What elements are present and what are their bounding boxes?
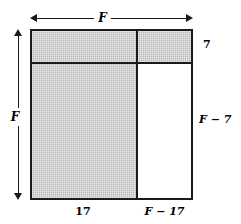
- partitioned-square: [30, 29, 193, 200]
- vertical-divider-line-lower: [136, 64, 138, 198]
- vertical-divider-line-upper: [136, 31, 138, 62]
- geometry-figure: F F 7 F − 7 17 F − 17: [0, 0, 241, 224]
- label-total-height-text: F: [10, 108, 21, 126]
- label-total-width: F: [0, 12, 223, 24]
- label-total-width-text: F: [94, 12, 111, 24]
- label-right-width: F − 17: [136, 206, 193, 217]
- label-lower-height-text: F − 7: [199, 113, 231, 126]
- label-band-height: 7: [203, 39, 211, 50]
- arrow-head-bottom-icon: [14, 193, 22, 200]
- label-right-width-text: F − 17: [145, 205, 185, 218]
- horizontal-divider-line: [32, 62, 191, 64]
- region-bottom-left: [32, 64, 136, 198]
- region-bottom-right: [138, 64, 191, 198]
- label-total-height: F: [6, 108, 24, 126]
- label-left-width: 17: [30, 206, 136, 217]
- label-lower-height: F − 7: [199, 114, 231, 125]
- region-top-band: [32, 31, 191, 62]
